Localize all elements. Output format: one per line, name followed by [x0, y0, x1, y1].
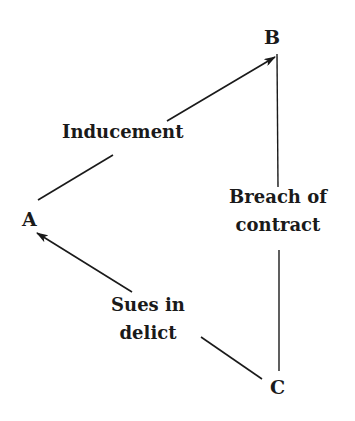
- breach-line-upper: [277, 54, 278, 187]
- breach-line1: Breach of: [222, 183, 334, 211]
- inducement-arrow-upper: [167, 57, 275, 121]
- sues-line-lower: [201, 337, 262, 379]
- edge-label-inducement: Inducement: [62, 118, 184, 146]
- sues-arrow-upper: [37, 233, 132, 292]
- diagram-canvas: B A C Inducement Breach of contract Sues…: [0, 0, 355, 421]
- sues-line2: delict: [100, 319, 196, 347]
- edge-label-breach-of-contract: Breach of contract: [222, 183, 334, 239]
- breach-line2: contract: [222, 211, 334, 239]
- sues-line1: Sues in: [100, 291, 196, 319]
- edge-label-sues-in-delict: Sues in delict: [100, 291, 196, 347]
- node-b-label: B: [264, 28, 280, 47]
- node-c-label: C: [270, 378, 285, 397]
- inducement-line-lower: [38, 155, 113, 200]
- node-a-label: A: [22, 210, 37, 229]
